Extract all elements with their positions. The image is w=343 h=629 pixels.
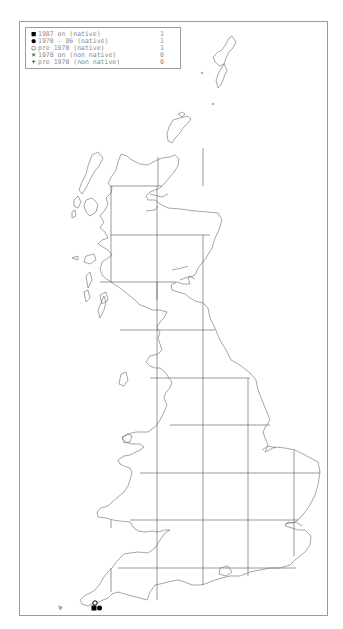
coastline [58, 36, 320, 610]
distribution-map [0, 0, 343, 629]
open-circle-icon [93, 601, 97, 605]
plus-icon: + [30, 59, 37, 66]
record-markers [92, 601, 103, 611]
legend: ■ 1987 on (native) 1 ● 1970 - 86 (native… [25, 27, 181, 69]
legend-item: + pre 1970 (non native) 0 [30, 59, 176, 66]
legend-count: 0 [160, 59, 176, 66]
filled-circle-icon [97, 606, 102, 611]
grid-lines [100, 148, 320, 600]
legend-label: pre 1970 (non native) [38, 59, 160, 66]
filled-square-icon [92, 606, 97, 611]
